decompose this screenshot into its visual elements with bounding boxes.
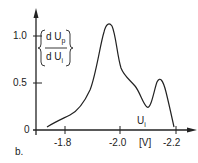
y-tick-label-1.0: 1.0 [13, 31, 27, 41]
y-tick-label-0: 0 [24, 125, 30, 135]
x-tick-label--1.8: -1.8 [54, 138, 71, 148]
x-axis-label: Ui [137, 116, 146, 128]
panel-label: b. [15, 147, 23, 157]
y-tick-label-0.5: 0.5 [13, 78, 27, 88]
y-label-numerator: d Up [46, 31, 65, 44]
x-tick-label--2.0: -2.0 [109, 138, 126, 148]
x-tick-label--2.2: -2.2 [163, 138, 180, 148]
y-axis-arrow-icon [34, 8, 39, 18]
y-label-numerator-main: d U [46, 31, 62, 42]
x-axis-label-sub: i [144, 121, 146, 128]
x-unit-label: [V] [139, 138, 151, 148]
y-label-denominator: d Ui [46, 51, 63, 64]
x-axis-arrow-icon [187, 128, 197, 133]
y-label-numerator-sub: p [62, 37, 66, 44]
y-label-denominator-main: d U [46, 51, 62, 62]
y-axis-label: d Up d Ui [40, 26, 70, 70]
y-label-denominator-sub: i [62, 57, 64, 64]
